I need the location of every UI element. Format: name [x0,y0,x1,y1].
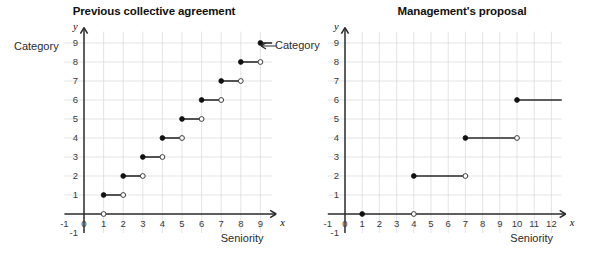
x-tick-label: 10 [512,218,523,229]
closed-endpoint-dot [121,174,126,179]
open-endpoint-dot [463,174,468,179]
step-segments-left [101,41,272,217]
y-axis-letter-left: y [72,21,78,32]
y-tick-label: 7 [334,75,339,86]
closed-endpoint-dot [238,60,243,65]
y-tick-label: 5 [334,113,339,124]
y-tick-label: 2 [334,170,339,181]
open-endpoint-dot [160,155,165,160]
open-endpoint-dot [199,117,204,122]
y-tick-label: 8 [73,56,78,67]
x-axis-label-left: Seniority [221,232,264,244]
closed-endpoint-dot [515,98,520,103]
y-tick-label: 1 [73,189,78,200]
x-tick-label: 1 [360,218,365,229]
x-tick-label: 0 [342,218,347,229]
step-function-figure: Previous collective agreement Category -… [0,0,616,262]
axes-right [328,28,566,233]
x-tick-label: 6 [199,218,204,229]
y-tick-label: 5 [73,113,78,124]
x-tick-label: 3 [394,218,399,229]
y-tick-label: 9 [73,37,78,48]
x-tick-label: 12 [546,218,557,229]
x-tick-label: 0 [81,218,86,229]
y-tick-label: 3 [334,151,339,162]
x-tick-label: 5 [428,218,433,229]
open-endpoint-dot [219,98,224,103]
open-endpoint-dot [258,60,263,65]
x-tick-label: 7 [463,218,468,229]
x-tick-label: 11 [529,218,539,229]
x-tick-label: 8 [480,218,485,229]
y-tick-label: 6 [73,94,78,105]
category-pointer-arrow-right [258,40,278,52]
open-endpoint-dot [238,79,243,84]
closed-endpoint-dot [160,136,165,141]
plot-area-right: -10123456789101112-1123456789 x y Senior… [308,0,616,262]
y-tick-label: -1 [70,227,78,238]
closed-endpoint-dot [180,117,185,122]
x-tick-label: 4 [160,218,165,229]
closed-endpoint-dot [199,98,204,103]
open-endpoint-dot [180,136,185,141]
y-tick-label: 8 [334,56,339,67]
x-tick-label: 1 [101,218,106,229]
x-tick-label: 2 [121,218,126,229]
x-tick-label: 4 [411,218,416,229]
y-axis-label-right: Category [275,39,320,51]
y-tick-label: 4 [334,132,339,143]
open-endpoint-dot [140,174,145,179]
y-tick-label: 6 [334,94,339,105]
open-endpoint-dot [121,193,126,198]
x-axis-label-right: Seniority [510,232,553,244]
gridlines-right [328,32,562,233]
y-tick-label: 7 [73,75,78,86]
x-axis-letter-right: x [569,217,575,228]
x-tick-label: -1 [60,218,68,229]
y-tick-label: 2 [73,170,78,181]
chart-panel-managements-proposal: Management's proposal -10123456789101112… [308,0,616,262]
x-tick-label: 3 [140,218,145,229]
closed-endpoint-dot [101,193,106,198]
x-tick-label: 9 [258,218,263,229]
x-tick-label: 9 [497,218,502,229]
x-tick-label: 7 [219,218,224,229]
closed-endpoint-dot [219,79,224,84]
closed-endpoint-dot [411,174,416,179]
closed-endpoint-dot [360,212,365,217]
closed-endpoint-dot [140,155,145,160]
open-endpoint-dot [515,136,520,141]
axes-left [64,28,276,233]
open-endpoint-dot [411,212,416,217]
y-tick-label: 4 [73,132,78,143]
x-tick-label: 8 [238,218,243,229]
y-tick-label: -1 [331,227,339,238]
y-tick-label: 9 [334,37,339,48]
y-tick-label: 3 [73,151,78,162]
x-tick-label: 5 [179,218,184,229]
x-axis-letter-left: x [279,217,285,228]
y-axis-letter-right: y [333,21,339,32]
open-endpoint-dot [101,212,106,217]
y-tick-label: 1 [334,189,339,200]
closed-endpoint-dot [463,136,468,141]
x-tick-label: 6 [446,218,451,229]
x-tick-label: 2 [377,218,382,229]
